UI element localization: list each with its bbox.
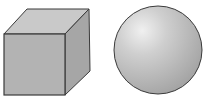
cube-front-face	[4, 34, 65, 95]
sphere	[114, 6, 202, 94]
figure: Cube Sphere	[0, 0, 212, 106]
sphere-body	[114, 6, 202, 94]
cube	[4, 9, 90, 95]
shapes-canvas	[0, 0, 212, 106]
